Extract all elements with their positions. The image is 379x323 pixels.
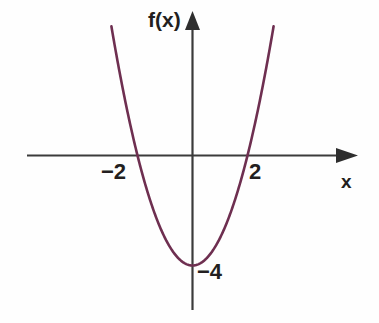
graph-canvas (0, 0, 379, 323)
y-axis-arrowhead-icon (185, 11, 200, 30)
x-tick-label-positive-two: 2 (249, 161, 261, 183)
x-axis-arrowhead-icon (336, 148, 358, 163)
graph-figure: f(x) x −2 2 −4 (0, 0, 379, 323)
x-axis-title: x (341, 172, 352, 191)
y-tick-label-negative-four: −4 (197, 261, 222, 283)
y-axis-title: f(x) (148, 9, 181, 30)
x-tick-label-negative-two: −2 (101, 161, 126, 183)
